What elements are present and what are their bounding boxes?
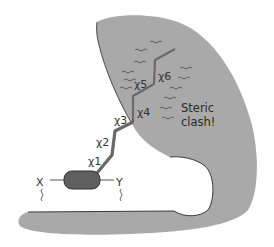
protein-surface bbox=[18, 15, 257, 234]
backbone-label-y: Y bbox=[115, 176, 123, 189]
chi3-label: χ3 bbox=[114, 114, 127, 127]
chi4-label: χ4 bbox=[137, 106, 150, 119]
backbone-residue bbox=[64, 171, 100, 189]
chi6-label: χ6 bbox=[158, 70, 171, 83]
steric-clash-line2: clash! bbox=[181, 115, 215, 129]
steric-clash-line1: Steric bbox=[181, 101, 214, 115]
chi1-label: χ1 bbox=[88, 155, 101, 168]
squiggle-right-icon bbox=[120, 189, 122, 201]
squiggle-left-icon bbox=[41, 189, 43, 201]
chi5-label: χ5 bbox=[134, 78, 147, 91]
backbone-label-x: X bbox=[36, 176, 44, 189]
steric-clash-diagram: X Y χ1 χ2 χ3 χ4 χ5 χ6 Steric clash! bbox=[0, 0, 274, 247]
chi2-label: χ2 bbox=[96, 136, 109, 149]
